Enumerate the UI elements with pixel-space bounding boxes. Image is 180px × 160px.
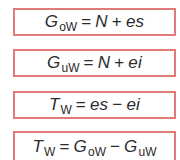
formula-sheet: GoW = N + es GuW = N + ei TW = es − ei T…	[0, 0, 180, 160]
term-lower-deviation: ei	[126, 95, 140, 115]
lhs-symbol: T	[32, 137, 43, 157]
formula-tolerance-deviations: TW = es − ei	[13, 91, 176, 119]
term-nominal-size: N	[98, 53, 110, 73]
plus-sign: +	[112, 12, 122, 32]
term-upper-limit-subscript: oW	[88, 145, 106, 159]
term-upper-deviation: es	[90, 95, 108, 115]
equals-sign: =	[59, 137, 69, 157]
term-lower-limit: G	[124, 137, 137, 157]
lhs-subscript: W	[60, 103, 71, 117]
lhs-subscript: uW	[62, 61, 80, 75]
equals-sign: =	[84, 53, 94, 73]
plus-sign: +	[114, 53, 124, 73]
minus-sign: −	[110, 137, 120, 157]
formula-upper-limit-size: GoW = N + es	[13, 8, 176, 36]
minus-sign: −	[112, 95, 122, 115]
lhs-subscript: oW	[59, 20, 77, 34]
term-upper-deviation: es	[126, 12, 144, 32]
term-upper-limit: G	[74, 137, 87, 157]
lhs-symbol: G	[45, 12, 58, 32]
term-lower-limit-subscript: uW	[139, 145, 157, 159]
term-lower-deviation: ei	[128, 53, 142, 73]
lhs-subscript: W	[44, 145, 55, 159]
term-nominal-size: N	[95, 12, 107, 32]
equals-sign: =	[76, 95, 86, 115]
lhs-symbol: G	[47, 53, 60, 73]
formula-tolerance-limits: TW = GoW − GuW	[13, 131, 176, 160]
equals-sign: =	[81, 12, 91, 32]
lhs-symbol: T	[49, 95, 60, 115]
formula-lower-limit-size: GuW = N + ei	[13, 49, 176, 77]
